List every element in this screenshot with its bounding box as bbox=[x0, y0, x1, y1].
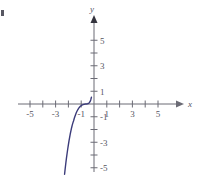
y-tick-label: 5 bbox=[100, 36, 105, 46]
y-axis-arrow-icon bbox=[91, 15, 98, 23]
x-axis-label: x bbox=[187, 99, 192, 109]
x-tick-label: -3 bbox=[52, 109, 60, 119]
graph-figure: -5-3-1135 -5-3-1135 x y bbox=[0, 0, 200, 195]
y-tick-label: -1 bbox=[100, 112, 108, 122]
x-tick-label: 3 bbox=[130, 109, 135, 119]
corner-artifact-mark bbox=[1, 10, 4, 16]
y-tick-label: -5 bbox=[100, 163, 108, 173]
x-tick-label: -5 bbox=[26, 109, 34, 119]
x-tick-label: 5 bbox=[156, 109, 161, 119]
y-tick-label: 1 bbox=[100, 87, 105, 97]
cartesian-plot: -5-3-1135 -5-3-1135 x y bbox=[0, 0, 200, 195]
function-curve bbox=[65, 97, 92, 174]
x-axis-arrow-icon bbox=[176, 101, 184, 108]
y-axis-label: y bbox=[89, 4, 94, 14]
y-tick-label: 3 bbox=[100, 61, 105, 71]
x-tick-label: -1 bbox=[77, 109, 85, 119]
y-tick-label: -3 bbox=[100, 138, 108, 148]
